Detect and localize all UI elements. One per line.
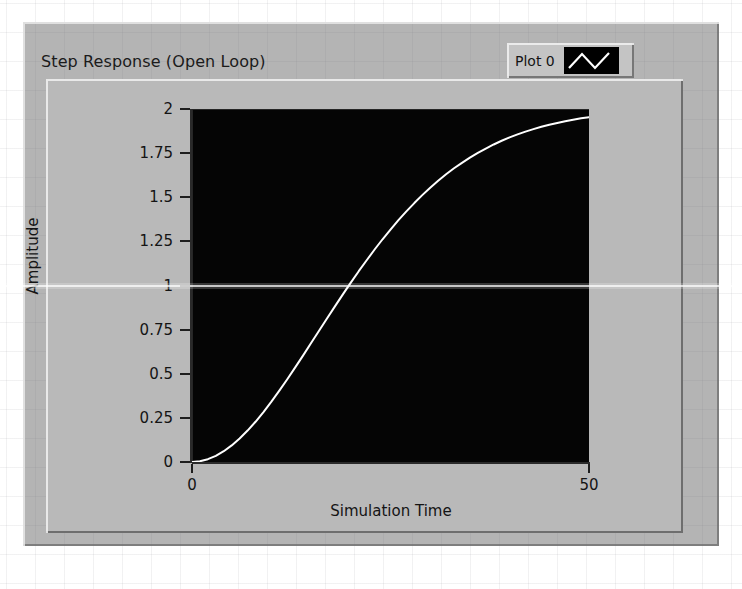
y-axis-tick-label: 1.75: [115, 144, 173, 162]
y-axis-tick: [180, 196, 190, 198]
y-axis-tick: [180, 152, 190, 154]
zigzag-line-icon[interactable]: [564, 47, 619, 74]
y-axis-tick-label: 0.25: [115, 409, 173, 427]
y-axis-tick: [180, 417, 190, 419]
step-response-trace: [192, 109, 589, 462]
y-axis-tick: [180, 329, 190, 331]
x-axis-tick: [191, 464, 193, 473]
x-axis-tick-label: 50: [559, 476, 619, 494]
y-axis-tick-labels: 21.751.51.2510.750.50.250: [115, 0, 173, 589]
legend-plot-label: Plot 0: [515, 53, 555, 69]
y-axis-title: Amplitude: [24, 196, 42, 316]
y-axis-tick-label: 0.5: [115, 365, 173, 383]
y-axis-tick: [180, 108, 190, 110]
labview-graph-screenshot: Step Response (Open Loop) Plot 0 21.751.…: [0, 0, 742, 589]
y-axis-tick: [180, 373, 190, 375]
y-axis-tick: [180, 285, 190, 287]
y-axis-line: [190, 109, 192, 463]
x-axis-title: Simulation Time: [192, 502, 590, 520]
y-axis-tick: [180, 240, 190, 242]
y-axis-tick-label: 1.25: [115, 232, 173, 250]
y-axis-tick-label: 1: [115, 277, 173, 295]
plot-canvas[interactable]: [192, 109, 589, 462]
plot-legend[interactable]: Plot 0: [507, 43, 634, 78]
x-axis-tick-label: 0: [162, 476, 222, 494]
y-axis-tick-label: 0.75: [115, 321, 173, 339]
x-axis-line: [192, 462, 590, 464]
y-axis-tick: [180, 461, 190, 463]
x-axis-tick: [588, 464, 590, 473]
y-axis-tick-label: 0: [115, 453, 173, 471]
y-axis-tick-label: 1.5: [115, 188, 173, 206]
y-axis-tick-label: 2: [115, 100, 173, 118]
